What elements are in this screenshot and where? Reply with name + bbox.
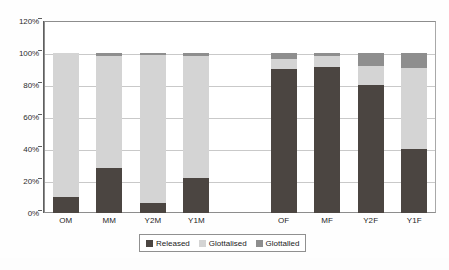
x-tick-label-of: OF — [264, 216, 304, 225]
legend-swatch-glottalised — [199, 240, 206, 247]
chart-legend: Released Glottalised Glottalled — [139, 234, 306, 252]
y-tick-0: 0% — [0, 210, 39, 218]
stacked-bar — [183, 53, 209, 213]
bar-group-y2m — [140, 21, 166, 213]
bar-segment-released — [96, 168, 122, 213]
y-tick-mark — [38, 114, 42, 115]
stacked-bar — [140, 53, 166, 213]
x-tick-label-mm: MM — [89, 216, 129, 225]
page-margin — [0, 258, 449, 270]
bar-segment-glottalised — [401, 68, 427, 149]
bar-segment-released — [314, 67, 340, 213]
stacked-bar — [401, 53, 427, 213]
y-tick-label: 60% — [23, 113, 39, 122]
y-tick-80: 80% — [0, 82, 39, 90]
y-tick-mark — [38, 210, 42, 211]
legend-label-glottalised: Glottalised — [209, 239, 247, 248]
bars-layer — [44, 21, 436, 213]
stacked-bar — [96, 53, 122, 213]
y-tick-60: 60% — [0, 114, 39, 122]
legend-item-released: Released — [146, 239, 190, 248]
bar-group-mm — [96, 21, 122, 213]
x-tick-label-y1f: Y1F — [394, 216, 434, 225]
bar-segment-glottalised — [53, 53, 79, 197]
stacked-bar — [53, 53, 79, 213]
x-tick-label-y1m: Y1M — [176, 216, 216, 225]
y-tick-20: 20% — [0, 178, 39, 186]
bar-group-y2f — [358, 21, 384, 213]
x-tick-label-om: OM — [46, 216, 86, 225]
bar-segment-glottalised — [140, 55, 166, 204]
bar-segment-released — [271, 69, 297, 213]
legend-label-released: Released — [156, 239, 190, 248]
y-tick-label: 20% — [23, 177, 39, 186]
stacked-bar — [314, 53, 340, 213]
bar-group-y1m — [183, 21, 209, 213]
y-tick-mark — [38, 18, 42, 19]
stacked-bar — [271, 53, 297, 213]
y-tick-label: 80% — [23, 81, 39, 90]
legend-item-glottalled: Glottalled — [256, 239, 300, 248]
legend-swatch-released — [146, 240, 153, 247]
stacked-bar-chart: 120% 100% 80% 60% 40% 20% 0% OMMMY2MY1MO… — [0, 0, 449, 270]
legend-label-glottalled: Glottalled — [266, 239, 300, 248]
bar-group-mf — [314, 21, 340, 213]
legend-swatch-glottalled — [256, 240, 263, 247]
bar-segment-glottalised — [271, 59, 297, 69]
bar-segment-glottalised — [358, 66, 384, 85]
bar-segment-glottalised — [183, 56, 209, 178]
bar-segment-released — [140, 203, 166, 213]
bar-segment-released — [183, 178, 209, 213]
y-tick-100: 100% — [0, 50, 39, 58]
bar-segment-released — [358, 85, 384, 213]
y-tick-40: 40% — [0, 146, 39, 154]
y-tick-label: 40% — [23, 145, 39, 154]
bar-segment-glottalised — [96, 56, 122, 168]
y-tick-mark — [38, 50, 42, 51]
bar-segment-glottalised — [314, 56, 340, 66]
y-tick-mark — [38, 178, 42, 179]
bar-segment-glottalled — [401, 53, 427, 68]
y-tick-mark — [38, 82, 42, 83]
bar-group-om — [53, 21, 79, 213]
y-tick-120: 120% — [0, 18, 39, 26]
bar-segment-glottalled — [358, 53, 384, 66]
bar-segment-released — [401, 149, 427, 213]
legend-item-glottalised: Glottalised — [199, 239, 247, 248]
x-tick-label-y2f: Y2F — [351, 216, 391, 225]
x-tick-label-mf: MF — [307, 216, 347, 225]
bar-group-y1f — [401, 21, 427, 213]
y-tick-label: 100% — [19, 49, 39, 58]
bar-group-of — [271, 21, 297, 213]
y-tick-mark — [38, 146, 42, 147]
bar-segment-released — [53, 197, 79, 213]
y-tick-label: 120% — [19, 17, 39, 26]
x-tick-label-y2m: Y2M — [133, 216, 173, 225]
stacked-bar — [358, 53, 384, 213]
